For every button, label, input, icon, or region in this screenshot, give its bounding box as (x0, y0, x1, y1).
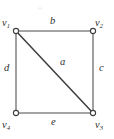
vertex-v3-dot (90, 110, 95, 115)
vertex-label-v3: v3 (95, 120, 103, 131)
edge-label-e: e (51, 117, 56, 128)
vertex-v2-dot (90, 28, 95, 33)
vertex-label-v1-subscript: 1 (7, 22, 10, 29)
vertex-label-v2-letter: v (95, 17, 100, 28)
vertex-label-v3-letter: v (95, 119, 100, 130)
vertex-label-v1-letter: v (2, 17, 7, 28)
page-speck-artifact (38, 7, 42, 10)
graph-figure: v1 v2 v3 v4 b c e d a (0, 0, 114, 139)
vertex-v1-dot (13, 28, 18, 33)
edge-label-d: d (4, 63, 9, 74)
vertex-label-v4-letter: v (2, 119, 7, 130)
vertex-v4-dot (13, 110, 18, 115)
vertex-label-v2-subscript: 2 (100, 22, 103, 29)
vertex-label-v4-subscript: 4 (7, 124, 10, 131)
edge-label-b: b (50, 16, 55, 27)
edge-a-diagonal-line (16, 31, 93, 113)
edge-label-c: c (99, 63, 104, 74)
vertex-label-v1: v1 (2, 18, 10, 29)
edge-group (16, 31, 93, 113)
vertex-label-v3-subscript: 3 (100, 124, 103, 131)
vertex-label-v2: v2 (95, 18, 103, 29)
vertex-label-v4: v4 (2, 120, 10, 131)
edge-label-a: a (60, 57, 65, 68)
